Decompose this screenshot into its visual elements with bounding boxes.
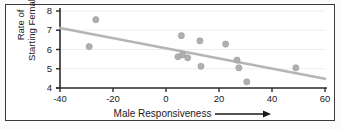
x-tick-label: 40 [258, 93, 286, 104]
data-point [178, 33, 184, 39]
y-tick-label: 8 [40, 5, 52, 16]
data-point [185, 55, 191, 61]
data-point [293, 65, 299, 71]
data-point [244, 79, 250, 85]
data-points [86, 17, 299, 85]
y-tick-label: 6 [40, 44, 52, 55]
regression-line [60, 28, 325, 79]
y-axis-label: Rate of Starting Females [15, 0, 37, 64]
x-tick-label: 20 [205, 93, 233, 104]
y-axis-label-line2: Starting Females [26, 0, 37, 61]
x-axis-arrow-icon [215, 109, 271, 119]
data-point [197, 38, 203, 44]
data-point [234, 57, 240, 63]
x-axis-label: Male Responsiveness [60, 108, 325, 119]
x-tick-label: -40 [46, 93, 74, 104]
gridlines [60, 11, 325, 88]
data-point [223, 41, 229, 47]
data-point [86, 44, 92, 50]
y-axis-label-line1: Rate of [15, 0, 26, 61]
data-point [236, 65, 242, 71]
x-tick-label: 60 [311, 93, 339, 104]
y-tick-label: 4 [40, 82, 52, 93]
y-tick-label: 5 [40, 63, 52, 74]
data-point [93, 17, 99, 23]
x-axis-label-text: Male Responsiveness [114, 108, 212, 119]
x-tick-label: -20 [99, 93, 127, 104]
trend-line [60, 28, 325, 79]
y-tick-label: 7 [40, 24, 52, 35]
data-point [198, 63, 204, 69]
tick-marks [56, 11, 325, 92]
figure-container: Rate of Starting Females Male Responsive… [0, 0, 341, 130]
x-tick-label: 0 [152, 93, 180, 104]
